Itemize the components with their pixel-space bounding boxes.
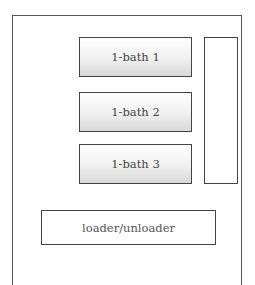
bath-2-label: 1-bath 2 <box>111 105 159 119</box>
bath-2-box: 1-bath 2 <box>79 92 192 132</box>
bath-1-box: 1-bath 1 <box>79 37 192 77</box>
bath-3-box: 1-bath 3 <box>79 144 192 184</box>
side-panel-box <box>204 37 238 184</box>
bath-1-label: 1-bath 1 <box>111 50 159 64</box>
loader-unloader-box: loader/unloader <box>41 210 216 245</box>
bath-3-label: 1-bath 3 <box>111 157 159 171</box>
loader-unloader-label: loader/unloader <box>82 221 175 235</box>
